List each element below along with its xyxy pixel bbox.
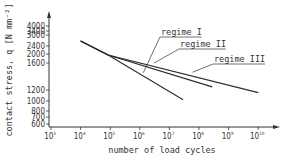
annotation-leader-line xyxy=(192,64,265,72)
y-tick-label: 1200 xyxy=(27,86,46,95)
x-tick-label: 109 xyxy=(222,131,234,141)
y-tick-label: 600 xyxy=(31,120,45,129)
x-tick-label: 108 xyxy=(192,131,204,141)
y-tick-label: 2000 xyxy=(27,50,46,59)
x-axis: 1031041051061071081091010 xyxy=(44,125,280,141)
y-axis-arrow-icon xyxy=(47,11,51,18)
y-tick-label: 1000 xyxy=(27,97,46,106)
annotation-label: regime I xyxy=(161,27,202,37)
x-tick-label: 107 xyxy=(163,131,175,141)
x-tick-label: 105 xyxy=(103,131,115,141)
x-axis-title: number of load cycles xyxy=(108,145,215,155)
annotation-label: regime II xyxy=(180,39,226,49)
chart: 4000340030002400200016001200100080070060… xyxy=(0,0,286,160)
x-tick-label: 1010 xyxy=(250,131,265,141)
x-tick-label: 103 xyxy=(44,131,56,141)
annotation-label: regime III xyxy=(214,54,265,64)
x-axis-arrow-icon xyxy=(273,125,280,129)
y-axis-title: contact stress, q [N mm⁻²] xyxy=(4,3,14,136)
y-tick-label: 1600 xyxy=(27,59,46,68)
x-tick-label: 104 xyxy=(74,131,86,141)
series-line-regime-iii xyxy=(81,41,259,93)
x-tick-label: 106 xyxy=(133,131,145,141)
y-tick-label: 3000 xyxy=(27,31,46,40)
y-axis: 4000340030002400200016001200100080070060… xyxy=(27,11,51,129)
